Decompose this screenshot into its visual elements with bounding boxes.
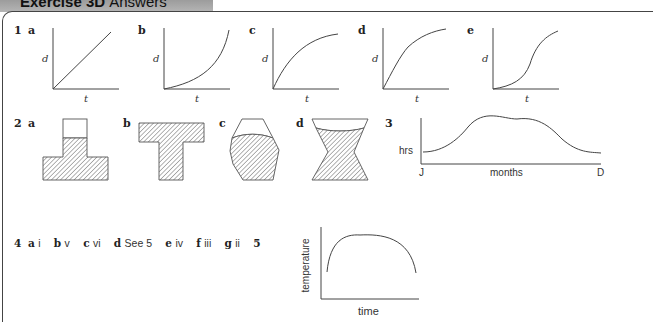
graph-1d — [383, 28, 449, 89]
q1-part-c: c — [249, 24, 256, 37]
graph-1d-ylabel: d — [372, 53, 378, 64]
question-4-answers: 4 a i b v c vi d See 5 e iv f iii g ii 5 — [14, 237, 261, 249]
q4-part-d: d — [114, 237, 121, 249]
graph-5-xlabel: time — [358, 305, 379, 317]
graph-1b-ylabel: d — [153, 53, 159, 64]
graph-1c — [273, 28, 339, 89]
q1-part-d: d — [358, 24, 366, 37]
question-2-number: 2 — [14, 117, 22, 130]
graph-3-xlabel: months — [490, 167, 523, 178]
q4-part-b: b — [54, 237, 61, 249]
graph-1c-ylabel: d — [262, 53, 268, 64]
graph-1a — [53, 28, 119, 89]
graph-1a-xlabel: t — [84, 93, 88, 104]
question-1-number: 1 — [14, 24, 22, 37]
container-2b — [139, 123, 204, 180]
graph-1e — [493, 28, 559, 89]
q4-answer-e: iv — [175, 237, 183, 249]
graph-3-x-end: D — [597, 167, 604, 178]
question-4-number: 4 — [14, 237, 21, 249]
graph-1a-ylabel: d — [42, 53, 48, 64]
question-3-number: 3 — [385, 117, 393, 130]
q4-answer-d: See 5 — [125, 237, 152, 249]
container-2c — [230, 119, 279, 180]
q4-part-g: g — [225, 237, 232, 249]
q1-part-a: a — [28, 24, 35, 37]
graph-1c-xlabel: t — [305, 93, 309, 104]
container-2a — [43, 119, 108, 180]
graph-1e-ylabel: d — [482, 53, 488, 64]
container-2d — [312, 119, 368, 180]
q4-part-a: a — [28, 237, 35, 249]
q1-part-b: b — [138, 24, 146, 37]
question-5-number: 5 — [253, 237, 260, 249]
graph-1e-xlabel: t — [525, 93, 529, 104]
graph-3-ylabel: hrs — [399, 145, 413, 156]
q4-part-c: c — [83, 237, 89, 249]
q4-answer-b: v — [65, 237, 70, 249]
graph-1b — [164, 28, 230, 89]
graph-5-temperature-time — [321, 227, 419, 299]
q4-part-e: e — [165, 237, 172, 249]
figures-canvas — [0, 0, 653, 322]
q4-answer-c: vi — [93, 237, 101, 249]
q4-answer-a: i — [38, 237, 40, 249]
graph-5-ylabel: temperature — [300, 231, 311, 301]
q2-part-c: c — [219, 117, 226, 130]
graph-1b-xlabel: t — [195, 93, 199, 104]
graph-1d-xlabel: t — [415, 93, 419, 104]
graph-3-x-start: J — [419, 167, 424, 178]
q1-part-e: e — [467, 24, 474, 37]
q2-part-a: a — [28, 117, 35, 130]
graph-3-daylight-hours — [421, 116, 601, 164]
q4-part-f: f — [196, 237, 201, 249]
q4-answer-g: ii — [235, 237, 240, 249]
q2-part-b: b — [123, 117, 131, 130]
q2-part-d: d — [296, 117, 304, 130]
q4-answer-f: iii — [204, 237, 211, 249]
